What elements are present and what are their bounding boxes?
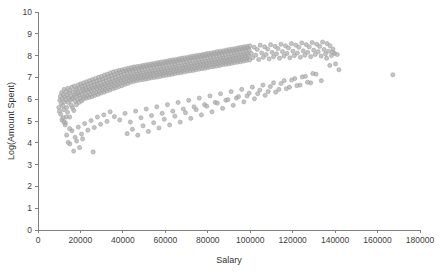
- data-point: [189, 116, 193, 120]
- x-tick-label: 140000: [321, 235, 350, 245]
- x-tick-label: 40000: [111, 235, 135, 245]
- data-point: [92, 125, 96, 129]
- data-point: [301, 49, 305, 53]
- data-point: [280, 50, 284, 54]
- data-point: [319, 79, 323, 83]
- data-point: [307, 45, 311, 49]
- y-tick-label: 3: [27, 160, 32, 170]
- x-tick-label: 180000: [406, 235, 435, 245]
- data-point: [325, 56, 329, 60]
- data-point: [257, 57, 261, 61]
- y-tick-label: 4: [27, 138, 32, 148]
- data-point: [65, 110, 69, 114]
- x-axis-title: Salary: [216, 255, 242, 265]
- data-point: [274, 52, 278, 56]
- data-point: [123, 111, 127, 115]
- data-point: [248, 44, 252, 48]
- data-point: [76, 125, 80, 129]
- data-point: [165, 103, 169, 107]
- data-point: [270, 50, 274, 54]
- data-point: [300, 41, 304, 45]
- data-point: [144, 107, 148, 111]
- data-point: [160, 111, 164, 115]
- data-point: [266, 47, 270, 51]
- data-point: [102, 113, 106, 117]
- y-tick-label: 8: [27, 51, 32, 61]
- data-point: [277, 56, 281, 60]
- data-point: [337, 68, 341, 72]
- data-point: [128, 120, 132, 124]
- data-point: [134, 109, 138, 113]
- data-point: [295, 51, 299, 55]
- y-tick-layer: 012345678910: [23, 7, 38, 235]
- data-points-layer: [57, 40, 395, 154]
- axes-layer: [38, 12, 420, 230]
- data-point: [66, 140, 70, 144]
- y-tick-label: 9: [27, 29, 32, 39]
- data-point: [65, 133, 69, 137]
- data-point: [80, 137, 84, 141]
- data-point: [295, 84, 299, 88]
- data-point: [91, 150, 95, 154]
- data-point: [141, 124, 145, 128]
- data-point: [268, 84, 272, 88]
- data-point: [221, 106, 225, 110]
- data-point: [322, 47, 326, 51]
- data-point: [205, 104, 209, 108]
- y-tick-label: 6: [27, 94, 32, 104]
- data-point: [210, 110, 214, 114]
- data-point: [86, 128, 90, 132]
- data-point: [240, 87, 244, 91]
- data-point: [157, 126, 161, 130]
- data-point: [335, 52, 339, 56]
- data-point: [252, 97, 256, 101]
- data-point: [61, 116, 65, 120]
- data-point: [258, 88, 262, 92]
- data-point: [247, 91, 251, 95]
- data-point: [218, 92, 222, 96]
- y-tick-label: 7: [27, 72, 32, 82]
- data-point: [139, 116, 143, 120]
- data-point: [284, 87, 288, 91]
- data-point: [300, 75, 304, 79]
- x-tick-label: 60000: [154, 235, 178, 245]
- data-point: [305, 80, 309, 84]
- data-point: [309, 55, 313, 59]
- data-point: [149, 113, 153, 117]
- data-point: [320, 40, 324, 44]
- data-point: [231, 103, 235, 107]
- data-point: [112, 115, 116, 119]
- data-point: [167, 123, 171, 127]
- data-point: [267, 57, 271, 61]
- data-point: [261, 83, 265, 87]
- data-point: [162, 117, 166, 121]
- data-point: [289, 42, 293, 46]
- data-point: [319, 54, 323, 58]
- data-point: [255, 47, 259, 51]
- data-point: [208, 94, 212, 98]
- data-point: [290, 78, 294, 82]
- data-point: [99, 122, 103, 126]
- data-point: [310, 40, 314, 44]
- data-point: [236, 94, 240, 98]
- data-point: [333, 62, 337, 66]
- data-point: [178, 120, 182, 124]
- data-point: [173, 114, 177, 118]
- y-tick-label: 1: [27, 203, 32, 213]
- data-point: [279, 81, 283, 85]
- y-tick-label: 10: [23, 7, 33, 17]
- data-point: [276, 47, 280, 51]
- data-point: [83, 122, 87, 126]
- data-point: [318, 44, 322, 48]
- data-point: [249, 51, 253, 55]
- data-point: [312, 48, 316, 52]
- data-point: [269, 43, 273, 47]
- data-point: [199, 113, 203, 117]
- data-point: [79, 132, 83, 136]
- data-point: [279, 42, 283, 46]
- data-point: [297, 45, 301, 49]
- data-point: [226, 98, 230, 102]
- data-point: [61, 104, 65, 108]
- data-point: [286, 46, 290, 50]
- data-point: [311, 71, 315, 75]
